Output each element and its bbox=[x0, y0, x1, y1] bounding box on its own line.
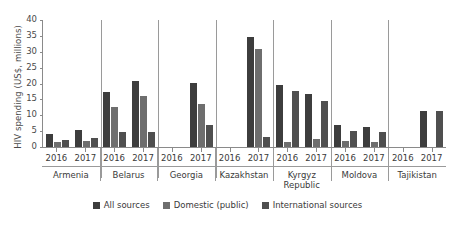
x-tick-label-2016: 2016 bbox=[273, 148, 302, 166]
year-label-group: 20162017 bbox=[215, 148, 273, 166]
x-tick-mark bbox=[56, 148, 57, 152]
year-label-group: 20162017 bbox=[331, 148, 389, 166]
x-tick-mark bbox=[374, 148, 375, 152]
x-tick-label-2016: 2016 bbox=[42, 148, 71, 166]
country-label: Armenia bbox=[42, 167, 100, 192]
year-column bbox=[72, 20, 101, 147]
bar-all-sources bbox=[46, 134, 53, 147]
y-tick-label: 0 bbox=[32, 141, 37, 151]
x-tick-label-2017: 2017 bbox=[302, 148, 331, 166]
legend-item[interactable]: Domestic (public) bbox=[163, 200, 249, 210]
bar-all-sources bbox=[334, 125, 341, 147]
legend-swatch bbox=[93, 202, 100, 209]
x-tick-mark bbox=[114, 148, 115, 152]
bar-all-sources bbox=[132, 81, 139, 147]
legend-item[interactable]: International sources bbox=[262, 200, 363, 210]
bar-all-sources bbox=[420, 111, 427, 148]
country-group bbox=[388, 20, 446, 147]
year-column bbox=[158, 20, 187, 147]
year-column bbox=[331, 20, 360, 147]
bar-all-sources bbox=[247, 37, 254, 147]
bar-groups bbox=[43, 20, 446, 147]
year-column bbox=[245, 20, 274, 147]
bar-international-sources bbox=[436, 111, 443, 147]
x-tick-label-2016: 2016 bbox=[215, 148, 244, 166]
x-tick-mark bbox=[258, 148, 259, 152]
x-tick-label-2017: 2017 bbox=[417, 148, 446, 166]
x-axis-year-labels: 2016201720162017201620172016201720162017… bbox=[42, 148, 446, 166]
country-group bbox=[101, 20, 159, 147]
bar-international-sources bbox=[119, 132, 126, 147]
x-tick-mark bbox=[432, 148, 433, 152]
bar-all-sources bbox=[190, 83, 197, 147]
country-group bbox=[331, 20, 389, 147]
y-tick-label: 10 bbox=[26, 109, 37, 119]
x-tick-label-2016: 2016 bbox=[157, 148, 186, 166]
y-tick-label: 20 bbox=[26, 78, 37, 88]
bar-international-sources bbox=[148, 132, 155, 147]
x-tick-label-2016: 2016 bbox=[388, 148, 417, 166]
year-label-group: 20162017 bbox=[157, 148, 215, 166]
x-tick-mark bbox=[85, 148, 86, 152]
country-label: Moldova bbox=[331, 167, 389, 192]
year-column bbox=[43, 20, 72, 147]
bar-all-sources bbox=[276, 85, 283, 147]
legend-item[interactable]: All sources bbox=[93, 200, 150, 210]
x-tick-label-2017: 2017 bbox=[71, 148, 100, 166]
y-tick-label: 30 bbox=[26, 46, 37, 56]
year-label-group: 20162017 bbox=[273, 148, 331, 166]
bar-international-sources bbox=[91, 138, 98, 147]
year-label-group: 20162017 bbox=[42, 148, 100, 166]
country-label: Belarus bbox=[100, 167, 158, 192]
x-tick-mark bbox=[403, 148, 404, 152]
year-column bbox=[216, 20, 245, 147]
x-tick-mark bbox=[172, 148, 173, 152]
bar-domestic-public bbox=[313, 139, 320, 147]
year-column bbox=[273, 20, 302, 147]
bar-all-sources bbox=[305, 94, 312, 147]
bar-all-sources bbox=[363, 127, 370, 147]
year-column bbox=[187, 20, 216, 147]
bar-international-sources bbox=[379, 132, 386, 147]
bar-international-sources bbox=[321, 101, 328, 147]
country-label: Tajikistan bbox=[388, 167, 446, 192]
y-axis-title: HIV spending (US$, millions) bbox=[13, 17, 23, 157]
year-column bbox=[302, 20, 331, 147]
country-group bbox=[273, 20, 331, 147]
x-tick-mark bbox=[345, 148, 346, 152]
y-tick-label: 25 bbox=[26, 62, 37, 72]
plot-area: 0510152025303540 bbox=[42, 20, 446, 147]
x-tick-label-2017: 2017 bbox=[186, 148, 215, 166]
legend-label: Domestic (public) bbox=[174, 200, 249, 210]
year-column bbox=[360, 20, 389, 147]
legend-swatch bbox=[163, 202, 170, 209]
bar-domestic-public bbox=[255, 49, 262, 147]
year-column bbox=[388, 20, 417, 147]
bar-international-sources bbox=[292, 91, 299, 147]
country-group bbox=[43, 20, 101, 147]
country-group bbox=[216, 20, 274, 147]
chart-container: HIV spending (US$, millions) 05101520253… bbox=[0, 0, 455, 227]
y-tick-label: 5 bbox=[32, 125, 37, 135]
y-tick-label: 15 bbox=[26, 93, 37, 103]
x-tick-label-2017: 2017 bbox=[129, 148, 158, 166]
x-axis-country-labels: ArmeniaBelarusGeorgiaKazakhstanKyrgyzRep… bbox=[42, 166, 446, 192]
bar-all-sources bbox=[103, 92, 110, 147]
x-tick-label-2017: 2017 bbox=[244, 148, 273, 166]
country-label: KyrgyzRepublic bbox=[273, 167, 331, 192]
bar-domestic-public bbox=[111, 107, 118, 147]
x-tick-mark bbox=[143, 148, 144, 152]
y-tick-label: 40 bbox=[26, 14, 37, 24]
country-group bbox=[158, 20, 216, 147]
year-label-group: 20162017 bbox=[388, 148, 446, 166]
year-column bbox=[101, 20, 130, 147]
year-column bbox=[129, 20, 158, 147]
country-label: Kazakhstan bbox=[215, 167, 273, 192]
bar-international-sources bbox=[263, 137, 270, 147]
legend-label: All sources bbox=[104, 200, 150, 210]
x-tick-label-2017: 2017 bbox=[359, 148, 388, 166]
legend-swatch bbox=[262, 202, 269, 209]
chart-legend: All sourcesDomestic (public)Internationa… bbox=[0, 200, 455, 210]
bar-international-sources bbox=[350, 131, 357, 147]
x-tick-mark bbox=[201, 148, 202, 152]
